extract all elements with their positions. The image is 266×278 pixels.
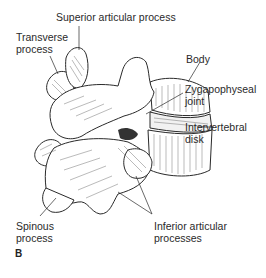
label-transverse-process-line2: process [16, 43, 53, 55]
label-intervertebral-disk-line1: Intervertebral [185, 121, 247, 133]
label-inferior-articular-processes-line1: Inferior articular [154, 220, 227, 232]
panel-letter: B [15, 248, 22, 259]
label-zygapophyseal-joint-line1: Zygapophyseal [185, 83, 256, 95]
label-spinous-process-line2: process [16, 232, 53, 244]
label-inferior-articular-processes-line2: processes [154, 232, 202, 244]
leader-inferior-articular-process-1 [118, 192, 152, 214]
leader-body [188, 62, 200, 82]
label-superior-articular-process: Superior articular process [56, 11, 176, 23]
label-zygapophyseal-joint-line2: joint [185, 95, 204, 107]
inferior-articular-process-shape [124, 149, 152, 179]
label-body: Body [186, 53, 210, 65]
leader-transverse-process [50, 56, 58, 74]
label-intervertebral-disk-line2: disk [185, 133, 204, 145]
zygapophyseal-joint-shape [118, 128, 138, 140]
vertebrae-figure: Superior articular process Transverse pr… [0, 0, 266, 278]
leader-inferior-articular-process-2 [136, 176, 152, 214]
label-spinous-process-line1: Spinous [16, 220, 54, 232]
label-transverse-process-line1: Transverse [16, 31, 68, 43]
